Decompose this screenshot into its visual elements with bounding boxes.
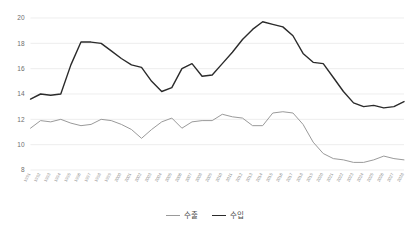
x-axis-tick-labels: 1991199219931994199519961997199819992000…: [23, 172, 406, 183]
legend-swatch-exports: [166, 215, 180, 216]
x-axis-tick-label: 2016: [275, 172, 284, 183]
x-axis-tick-label: 1996: [73, 172, 82, 183]
x-axis-tick-label: 2020: [315, 172, 324, 183]
x-axis-tick-label: 2015: [265, 172, 274, 183]
legend-swatch-imports: [212, 215, 226, 216]
line-chart: 8101214161820 19911992199319941995199619…: [0, 0, 409, 225]
x-axis-tick-label: 1993: [43, 172, 52, 183]
x-axis-tick-label: 2013: [245, 172, 254, 183]
x-axis-tick-label: 2018: [295, 172, 304, 183]
y-axis-tick-label: 18: [17, 40, 25, 47]
y-axis-tick-label: 20: [17, 14, 25, 21]
y-axis-tick-labels: 8101214161820: [17, 14, 25, 173]
y-axis-tick-label: 14: [17, 90, 25, 97]
x-axis-tick-label: 2014: [255, 172, 264, 183]
x-axis-tick-label: 2002: [134, 172, 143, 183]
legend-item-imports[interactable]: 수입: [212, 212, 244, 220]
x-axis-tick-label: 1999: [103, 172, 112, 183]
x-axis-tick-label: 1995: [63, 172, 72, 183]
gridlines: [31, 18, 405, 170]
x-axis-tick-label: 2006: [174, 172, 183, 183]
x-axis-tick-label: 2022: [336, 172, 345, 183]
legend-label-exports: 수출: [184, 212, 198, 220]
x-axis-tick-label: 2021: [325, 172, 334, 183]
x-axis-tick-label: 2005: [164, 172, 173, 183]
x-axis-tick-label: 2017: [285, 172, 294, 183]
x-axis-tick-label: 2024: [356, 172, 365, 183]
x-axis-tick-label: 2004: [154, 172, 163, 183]
y-axis-tick-label: 10: [17, 141, 25, 148]
x-axis-tick-label: 2026: [376, 172, 385, 183]
x-axis-tick-label: 2009: [204, 172, 213, 183]
x-axis-tick-label: 1998: [93, 172, 102, 183]
x-axis-tick-label: 2027: [386, 172, 395, 183]
y-axis-tick-label: 16: [17, 65, 25, 72]
x-axis-tick-label: 2008: [194, 172, 203, 183]
x-axis-tick-label: 2019: [305, 172, 314, 183]
x-axis-tick-label: 2001: [124, 172, 133, 183]
x-axis-tick-label: 2007: [184, 172, 193, 183]
x-axis-tick-label: 2012: [235, 172, 244, 183]
legend-item-exports[interactable]: 수출: [166, 212, 198, 220]
x-axis-tick-label: 1997: [83, 172, 92, 183]
series-line-imports: [31, 22, 405, 108]
x-axis-tick-label: 2010: [214, 172, 223, 183]
x-axis-tick-label: 2028: [396, 172, 405, 183]
x-axis-tick-label: 2000: [113, 172, 122, 183]
x-axis-tick-label: 1992: [33, 172, 42, 183]
x-axis-tick-label: 2003: [144, 172, 153, 183]
y-axis-tick-label: 12: [17, 116, 25, 123]
x-axis-tick-label: 2025: [366, 172, 375, 183]
data-series: [31, 22, 405, 163]
x-axis-tick-label: 2011: [225, 172, 234, 183]
y-axis-tick-label: 8: [21, 166, 25, 173]
chart-legend: 수출 수입: [0, 212, 409, 220]
x-axis-tick-label: 2023: [346, 172, 355, 183]
x-axis-tick-label: 1994: [53, 172, 62, 183]
chart-plot-area: 8101214161820 19911992199319941995199619…: [0, 0, 409, 225]
legend-label-imports: 수입: [230, 212, 244, 220]
